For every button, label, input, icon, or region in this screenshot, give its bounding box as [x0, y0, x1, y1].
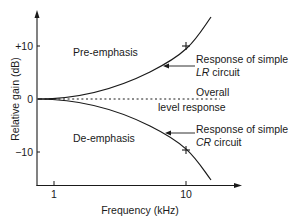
overall-label-line1: Overall [196, 86, 229, 98]
y-axis-title: Relative gain (dB) [9, 57, 21, 140]
y-axis-arrow-icon [35, 10, 40, 18]
ytick-label-0: 0 [27, 93, 33, 105]
lr-label-line2: LR circuit [196, 66, 240, 78]
ytick-label-minus10: −10 [15, 146, 33, 158]
ticks [37, 46, 186, 185]
ytick-label-plus10: +10 [15, 40, 33, 52]
emphasis-response-chart: +10 0 −10 1 10 Relative gain (dB) Freque… [0, 0, 296, 222]
cr-label-line2: CR circuit [196, 136, 242, 148]
pre-emphasis-label: Pre-emphasis [73, 46, 138, 58]
pre-emphasis-curve [38, 17, 211, 99]
marker-plus10-icon [182, 42, 190, 50]
x-axis-title: Frequency (kHz) [101, 204, 179, 216]
xtick-label-1: 1 [51, 188, 57, 200]
x-axis-arrow-icon [234, 183, 242, 188]
de-emphasis-label: De-emphasis [73, 132, 135, 144]
xtick-label-10: 10 [180, 188, 192, 200]
cr-label-line1: Response of simple [196, 123, 288, 135]
lr-label-line1: Response of simple [196, 53, 288, 65]
overall-label-line2: level response [158, 101, 226, 113]
